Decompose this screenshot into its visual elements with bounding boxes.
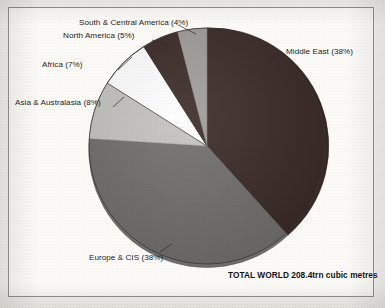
pie-label-north-america: North America (5%) bbox=[63, 31, 135, 41]
figure-page: South & Central America (4%) North Ameri… bbox=[0, 0, 385, 308]
pie-shading-overlay bbox=[89, 28, 325, 264]
pie-label-africa: Africa (7%) bbox=[42, 60, 83, 70]
pie-label-asia-australasia: Asia & Australasia (8%) bbox=[15, 98, 101, 108]
pie-chart: South & Central America (4%) North Ameri… bbox=[0, 0, 385, 308]
pie-label-middle-east: Middle East (38%) bbox=[286, 47, 353, 57]
pie-label-europe-cis: Europe & CIS (38%) bbox=[89, 253, 163, 263]
total-world-caption: TOTAL WORLD 208.4trn cubic metres bbox=[228, 270, 378, 280]
pie-label-south-central-america: South & Central America (4%) bbox=[79, 18, 188, 28]
